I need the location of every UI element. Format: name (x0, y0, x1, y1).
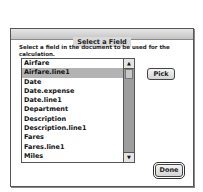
list-item[interactable]: Description (22, 115, 123, 124)
list-item[interactable]: Miles (22, 152, 123, 161)
scroll-thumb[interactable] (125, 69, 133, 79)
field-list[interactable]: Airfare Airfare.line1 Date Date.expense … (22, 59, 123, 162)
list-item[interactable]: Fares (22, 133, 123, 142)
list-item[interactable]: Department (22, 105, 123, 114)
scroll-up-arrow-icon[interactable]: ▲ (124, 59, 134, 69)
list-item[interactable]: Fares.line1 (22, 143, 123, 152)
dialog-title-bar[interactable]: Select a Field (11, 29, 193, 40)
dialog-prompt: Select a field in the document to be use… (19, 44, 179, 58)
pick-button[interactable]: Pick (147, 68, 175, 80)
list-item[interactable]: Date.line1 (22, 96, 123, 105)
field-list-box: Airfare Airfare.line1 Date Date.expense … (21, 58, 135, 163)
list-scrollbar[interactable]: ▲ ▼ (123, 59, 134, 162)
list-item[interactable]: Airfare (22, 59, 123, 68)
list-item[interactable]: Date.expense (22, 87, 123, 96)
list-item-selected[interactable]: Airfare.line1 (22, 68, 123, 77)
done-button[interactable]: Done (155, 164, 183, 177)
select-field-dialog: Select a Field Select a field in the doc… (10, 28, 194, 187)
list-item[interactable]: Date (22, 78, 123, 87)
list-item[interactable]: Description.line1 (22, 124, 123, 133)
scroll-down-arrow-icon[interactable]: ▼ (124, 152, 134, 162)
